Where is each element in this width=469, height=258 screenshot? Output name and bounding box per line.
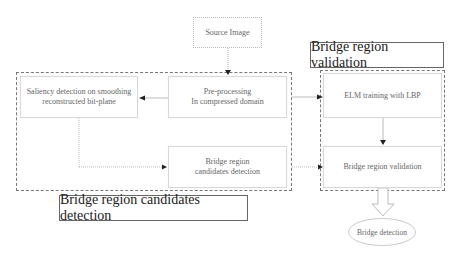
candidates-label-line1: Bridge region: [195, 157, 260, 167]
preprocessing-label-line1: Pre-processing: [191, 87, 263, 97]
validation-label: Bridge region validation: [343, 162, 421, 172]
validation-group-label: Bridge region validation: [310, 42, 444, 68]
candidates-label-line2: candidates detection: [195, 167, 260, 177]
source-image-node: Source Image: [193, 17, 262, 48]
candidates-group-label: Bridge region candidates detection: [59, 195, 248, 221]
elm-training-node: ELM training with LBP: [323, 73, 442, 118]
candidates-detection-node: Bridge region candidates detection: [168, 146, 287, 188]
preprocessing-node: Pre-processing In compressed domain: [168, 76, 287, 118]
validation-node: Bridge region validation: [323, 146, 442, 188]
source-image-label: Source Image: [205, 28, 249, 38]
validation-group-label-text: Bridge region validation: [311, 39, 443, 71]
preprocessing-label-line2: In compressed domain: [191, 97, 263, 107]
saliency-label-line2: reconstructed bit-plane: [27, 97, 132, 107]
candidates-group-label-text: Bridge region candidates detection: [60, 192, 247, 224]
elm-label: ELM training with LBP: [344, 91, 421, 101]
bridge-detection-node: Bridge detection: [348, 218, 416, 246]
bridge-detection-label: Bridge detection: [357, 228, 407, 237]
saliency-label-line1: Saliency detection on smoothing: [27, 87, 132, 97]
saliency-detection-node: Saliency detection on smoothing reconstr…: [20, 76, 138, 118]
